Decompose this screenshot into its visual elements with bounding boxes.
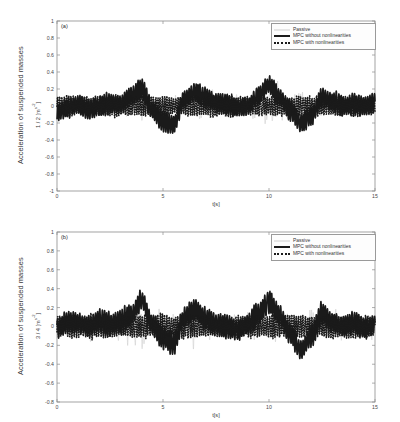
dotted-line-key-icon — [274, 40, 290, 46]
panel-tag-b: (b) — [61, 234, 68, 240]
y-tick-label: -0.4 — [38, 137, 54, 143]
legend-label-mpc-linear-a: MPC without nonlinearities — [293, 33, 351, 39]
thick-line-key-icon — [274, 244, 290, 250]
y-tick-label: 1 — [38, 18, 54, 24]
y-tick-label: -0.8 — [38, 171, 54, 177]
legend-item-passive-a: Passive — [274, 26, 372, 32]
y-tick-label: -0.6 — [38, 154, 54, 160]
legend-item-mpc-nonlinear-b: MPC with nonlinearities — [274, 251, 372, 257]
y-tick-label: 0 — [38, 323, 54, 329]
y-tick-label: -0.2 — [38, 120, 54, 126]
x-tick-label: 15 — [368, 404, 382, 410]
y-axis-label-a: Acceleration of suspended masses — [16, 46, 25, 164]
y-tick-label: -0.4 — [38, 361, 54, 367]
y-tick-label: 0.6 — [38, 52, 54, 58]
legend-label-mpc-nonlinear-a: MPC with nonlinearities — [293, 40, 344, 46]
dotted-line-key-icon — [274, 251, 290, 257]
thick-line-key-icon — [274, 33, 290, 39]
panel-tag-a: (a) — [61, 23, 68, 29]
y-tick-label: 0.4 — [38, 69, 54, 75]
figure-root: Acceleration of suspended masses 1 / 2 [… — [0, 0, 400, 422]
x-tick-label: 15 — [368, 193, 382, 199]
series-line — [57, 313, 375, 340]
y-tick-label: 1 — [38, 229, 54, 235]
legend-a: Passive MPC without nonlinearities MPC w… — [271, 23, 376, 50]
y-unit-sup-b: s-2 — [35, 315, 41, 321]
x-tick-label: 5 — [156, 193, 170, 199]
legend-item-mpc-nonlinear-a: MPC with nonlinearities — [274, 40, 372, 46]
legend-label-passive-b: Passive — [293, 238, 310, 244]
x-tick-label: 0 — [50, 404, 64, 410]
legend-label-passive-a: Passive — [293, 27, 310, 33]
y-tick-label: 0.8 — [38, 35, 54, 41]
x-axis-label-b: t[s] — [186, 412, 246, 418]
legend-b: Passive MPC without nonlinearities MPC w… — [271, 234, 376, 261]
legend-item-mpc-linear-a: MPC without nonlinearities — [274, 33, 372, 39]
y-tick-label: 0.2 — [38, 86, 54, 92]
x-tick-label: 10 — [262, 404, 276, 410]
thin-line-key-icon — [274, 238, 290, 244]
x-axis-label-a: t[s] — [186, 201, 246, 207]
plot-panel-b: Acceleration of suspended masses 3 / 4 [… — [0, 211, 400, 422]
legend-item-mpc-linear-b: MPC without nonlinearities — [274, 244, 372, 250]
thin-line-key-icon — [274, 27, 290, 33]
legend-label-mpc-linear-b: MPC without nonlinearities — [293, 244, 351, 250]
plot-panel-a: Acceleration of suspended masses 1 / 2 [… — [0, 0, 400, 211]
x-tick-label: 0 — [50, 193, 64, 199]
y-tick-label: 0.8 — [38, 248, 54, 254]
y-tick-label: -0.6 — [38, 380, 54, 386]
y-tick-label: -0.2 — [38, 342, 54, 348]
y-tick-label: 0 — [38, 103, 54, 109]
legend-label-mpc-nonlinear-b: MPC with nonlinearities — [293, 251, 344, 257]
y-unit-suffix-b: ] — [35, 313, 41, 315]
x-tick-label: 5 — [156, 404, 170, 410]
x-tick-label: 10 — [262, 193, 276, 199]
legend-item-passive-b: Passive — [274, 237, 372, 243]
y-tick-label: 0.2 — [38, 305, 54, 311]
y-axis-label-b: Acceleration of suspended masses — [16, 257, 25, 375]
y-tick-label: 0.6 — [38, 267, 54, 273]
y-tick-label: 0.4 — [38, 286, 54, 292]
